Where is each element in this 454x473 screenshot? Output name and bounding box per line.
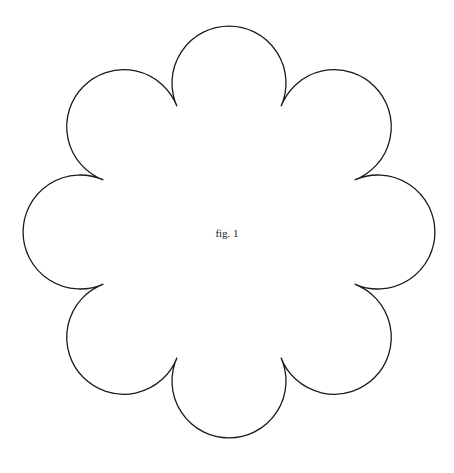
figure-caption: fig. 1	[0, 227, 454, 239]
